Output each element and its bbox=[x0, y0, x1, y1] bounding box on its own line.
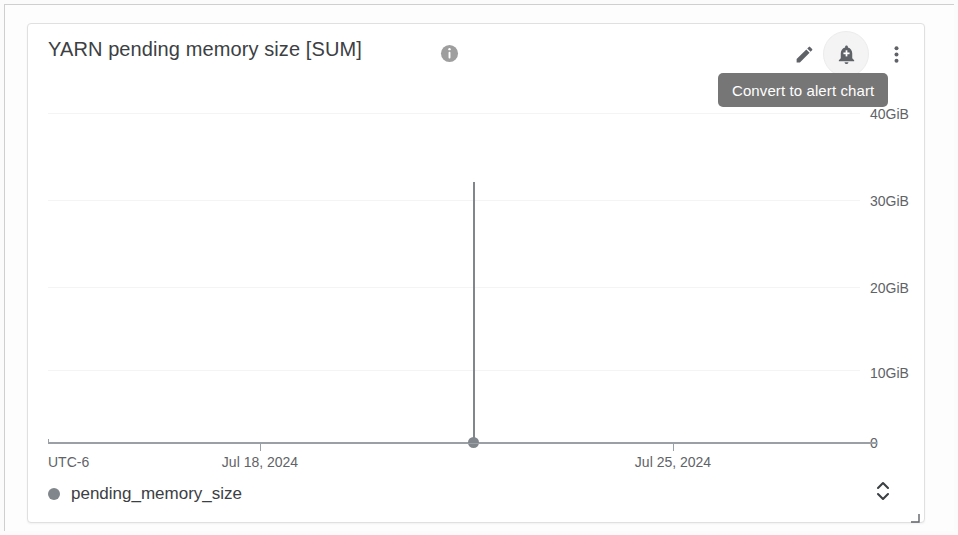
page-frame: YARN pending memory size [SUM] bbox=[4, 4, 954, 531]
x-axis-label-jul18: Jul 18, 2024 bbox=[222, 454, 298, 470]
convert-to-alert-chart-button[interactable] bbox=[823, 31, 869, 77]
pencil-icon bbox=[794, 44, 815, 65]
info-icon[interactable] bbox=[440, 44, 459, 63]
more-options-button[interactable] bbox=[880, 38, 912, 70]
resize-corner-icon[interactable] bbox=[910, 509, 920, 519]
x-axis-tick-jul18 bbox=[260, 444, 261, 451]
y-axis-label-20gib: 20GiB bbox=[870, 280, 909, 296]
bell-plus-icon bbox=[835, 43, 858, 66]
unfold-more-icon bbox=[874, 479, 892, 507]
more-vert-icon bbox=[894, 43, 899, 66]
y-axis-label-10gib: 10GiB bbox=[870, 365, 909, 381]
legend-item-label: pending_memory_size bbox=[71, 484, 242, 504]
timezone-label: UTC-6 bbox=[48, 454, 89, 470]
y-axis-label-30gib: 30GiB bbox=[870, 193, 909, 209]
edit-chart-button[interactable] bbox=[788, 38, 820, 70]
legend-expand-button[interactable] bbox=[870, 478, 896, 508]
chart-plot-area[interactable]: 40GiB 30GiB 20GiB 10GiB 0 UTC-6 Jul 18, … bbox=[48, 82, 904, 467]
gridline-30gib bbox=[48, 200, 860, 201]
y-axis-label-40gib: 40GiB bbox=[870, 106, 909, 122]
gridline-20gib bbox=[48, 287, 860, 288]
tooltip: Convert to alert chart bbox=[718, 73, 888, 107]
x-axis-tick-jul25 bbox=[673, 444, 674, 451]
series-spike-line bbox=[473, 182, 475, 443]
x-axis-start-cap bbox=[48, 439, 49, 444]
gridline-40gib bbox=[48, 113, 860, 114]
x-axis-line bbox=[48, 443, 877, 444]
x-axis-label-jul25: Jul 25, 2024 bbox=[635, 454, 711, 470]
gridline-10gib bbox=[48, 370, 860, 371]
page-title: YARN pending memory size [SUM] bbox=[48, 38, 362, 61]
legend-color-swatch bbox=[48, 488, 60, 500]
chart-legend[interactable]: pending_memory_size bbox=[48, 484, 242, 504]
